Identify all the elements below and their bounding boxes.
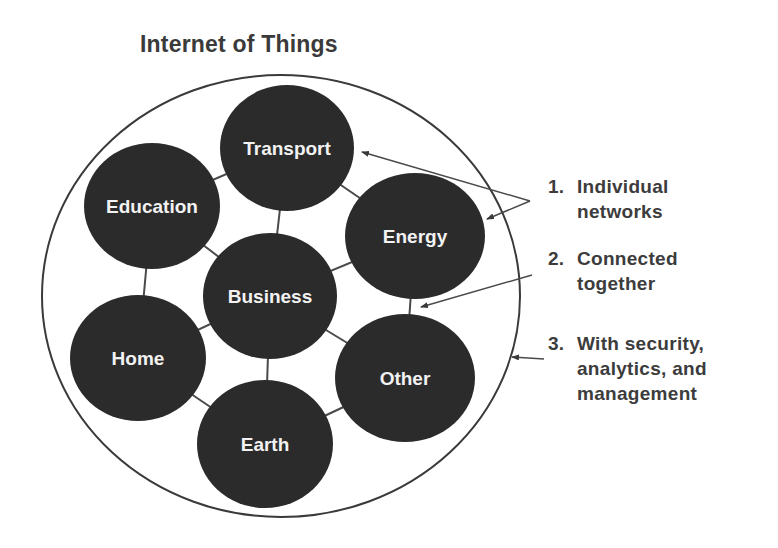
annotation-text: Connected	[577, 248, 678, 269]
annotation-arrow-2	[487, 201, 530, 219]
annotation-number: 2.	[548, 246, 577, 271]
annotation-item-3: 3.With security,analytics, andmanagement	[548, 331, 707, 406]
node-label: Transport	[243, 138, 331, 159]
node-label: Business	[228, 286, 312, 307]
node-business: Business	[203, 233, 337, 359]
network-nodes: TransportEducationEnergyBusinessHomeOthe…	[70, 85, 485, 508]
node-label: Other	[380, 368, 431, 389]
annotation-item-1: 1.Individualnetworks	[548, 174, 669, 224]
annotation-text: management	[577, 383, 697, 404]
diagram-title: Internet of Things	[140, 31, 338, 58]
annotation-item-2: 2.Connectedtogether	[548, 246, 678, 296]
node-label: Earth	[241, 434, 290, 455]
annotation-text: With security,	[577, 333, 704, 354]
annotation-text: Individual	[577, 176, 669, 197]
annotation-number: 1.	[548, 174, 577, 199]
node-other: Other	[335, 314, 475, 442]
node-transport: Transport	[220, 85, 354, 211]
node-label: Home	[112, 348, 165, 369]
annotation-arrow-4	[512, 357, 544, 359]
node-home: Home	[70, 295, 206, 421]
annotation-number: 3.	[548, 331, 577, 356]
annotation-text: networks	[577, 201, 663, 222]
node-label: Energy	[383, 226, 448, 247]
annotation-text: analytics, and	[577, 358, 707, 379]
node-education: Education	[84, 143, 220, 269]
node-earth: Earth	[197, 380, 333, 508]
annotation-text: together	[577, 273, 655, 294]
node-energy: Energy	[345, 173, 485, 299]
node-label: Education	[106, 196, 198, 217]
